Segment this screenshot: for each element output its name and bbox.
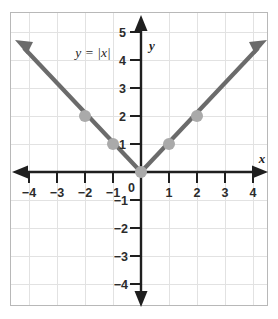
- data-point: [107, 138, 119, 150]
- y-tick-label-pos2: 2: [119, 110, 126, 124]
- y-tick-label-neg1: −1: [114, 194, 128, 208]
- origin-label: 0: [128, 181, 135, 195]
- x-tick-label-neg3: −3: [50, 186, 64, 200]
- y-tick-label-pos4: 4: [119, 54, 126, 68]
- data-point: [191, 110, 203, 122]
- x-tick-label-pos2: 2: [194, 186, 201, 200]
- y-tick-label-pos5: 5: [119, 26, 126, 40]
- chart-background: [0, 0, 278, 319]
- x-tick-label-neg2: −2: [78, 186, 92, 200]
- absolute-value-graph-figure: −4 −3 −2 −1 1 2 3 4 5 4 3 2 1 −1 −2 −3 −…: [0, 0, 278, 319]
- y-tick-label-neg3: −3: [114, 250, 128, 264]
- y-axis-label: y: [147, 38, 155, 53]
- x-tick-label-pos1: 1: [166, 186, 173, 200]
- data-point: [79, 110, 91, 122]
- y-tick-label-neg2: −2: [114, 222, 128, 236]
- x-tick-label-neg4: −4: [22, 186, 36, 200]
- y-tick-label-neg4: −4: [114, 278, 128, 292]
- x-axis-label: x: [258, 151, 266, 166]
- y-tick-label-pos3: 3: [119, 82, 126, 96]
- data-point: [163, 138, 175, 150]
- y-tick-label-pos1: 1: [119, 138, 126, 152]
- data-point: [135, 166, 147, 178]
- equation-label: y = |x|: [73, 45, 110, 60]
- coordinate-plane-chart: −4 −3 −2 −1 1 2 3 4 5 4 3 2 1 −1 −2 −3 −…: [0, 0, 278, 319]
- x-tick-label-pos4: 4: [250, 186, 257, 200]
- x-tick-label-pos3: 3: [222, 186, 229, 200]
